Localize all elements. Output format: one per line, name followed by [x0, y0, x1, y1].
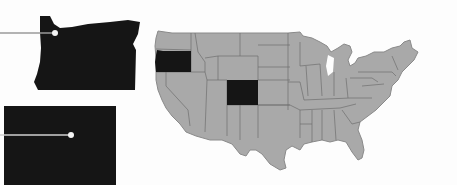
colorado-callout	[0, 106, 116, 185]
colorado-marker-dot	[68, 132, 74, 138]
oregon-marker-dot	[52, 30, 58, 36]
us-mainland	[155, 31, 418, 170]
colorado-callout-shape	[4, 106, 116, 185]
oregon-callout-shape	[34, 16, 140, 90]
us-map	[155, 31, 418, 170]
us-map-figure	[0, 0, 457, 185]
oregon-callout	[0, 16, 140, 90]
oregon-highlight	[155, 50, 191, 72]
colorado-highlight	[227, 80, 258, 105]
